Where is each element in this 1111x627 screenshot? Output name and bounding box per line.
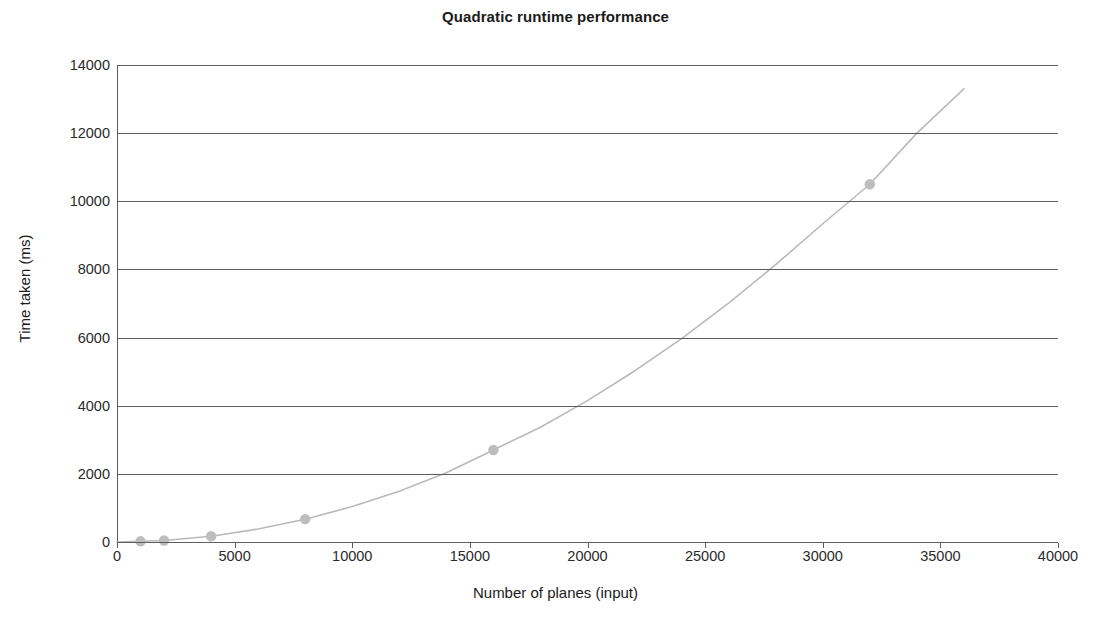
x-tick-mark [352,543,353,548]
x-tick-label: 25000 [660,548,750,564]
gridline-y [117,201,1058,202]
y-tick-label: 8000 [46,261,110,277]
y-tick-label: 4000 [46,398,110,414]
y-axis-title: Time taken (ms) [16,169,33,409]
y-tick-label: 12000 [46,125,110,141]
x-tick-mark [1058,543,1059,548]
gridline-y [117,474,1058,475]
y-axis-tick-labels: 02000400060008000100001200014000 [40,0,110,627]
series-markers [135,179,875,546]
x-tick-mark [235,543,236,548]
gridline-y [117,406,1058,407]
data-point-marker [300,514,310,524]
x-tick-mark [470,543,471,548]
x-tick-mark [823,543,824,548]
plot-area [117,65,1058,542]
x-tick-label: 20000 [543,548,633,564]
x-tick-label: 40000 [1013,548,1103,564]
gridline-y [117,338,1058,339]
x-tick-label: 5000 [190,548,280,564]
gridline-y [117,65,1058,66]
y-tick-label: 10000 [46,193,110,209]
x-axis-title: Number of planes (input) [0,584,1111,601]
chart-title: Quadratic runtime performance [0,8,1111,25]
series-quadratic-runtime [117,65,1058,542]
gridline-y [117,269,1058,270]
chart-canvas: Quadratic runtime performance Time taken… [0,0,1111,627]
y-tick-label: 2000 [46,466,110,482]
x-tick-label: 35000 [895,548,985,564]
x-tick-label: 15000 [425,548,515,564]
x-tick-mark [588,543,589,548]
data-point-marker [206,531,216,541]
y-tick-label: 6000 [46,330,110,346]
x-tick-label: 30000 [778,548,868,564]
x-tick-label: 0 [72,548,162,564]
data-point-marker [865,179,875,189]
x-tick-mark [705,543,706,548]
data-point-marker [488,445,498,455]
x-tick-mark [940,543,941,548]
y-tick-label: 14000 [46,57,110,73]
x-tick-label: 10000 [307,548,397,564]
gridline-y [117,133,1058,134]
x-tick-mark [117,543,118,548]
data-point-marker [159,535,169,545]
